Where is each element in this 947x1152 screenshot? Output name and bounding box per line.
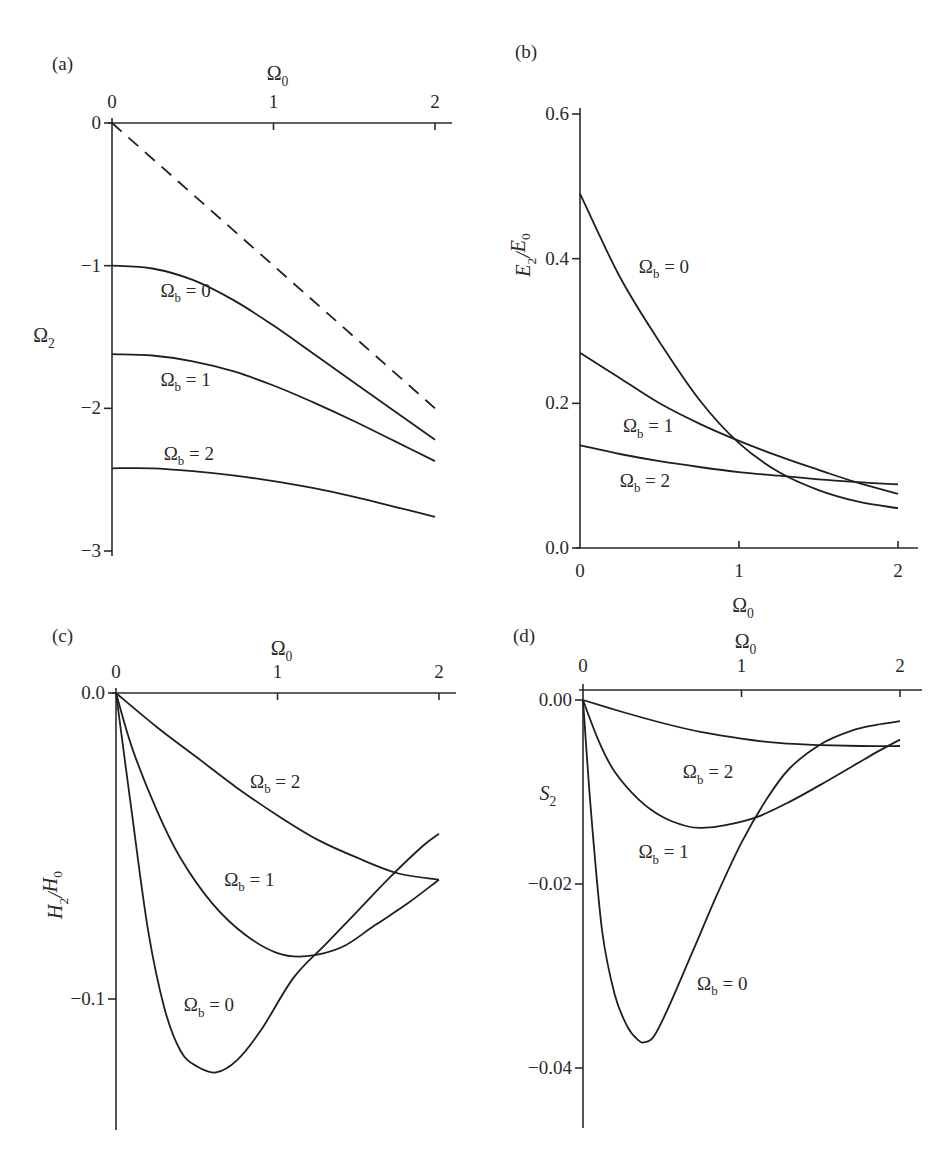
x-tick-label-d: 2 <box>895 655 905 676</box>
series-label-b-omega-b-1: Ωb = 1 <box>623 415 673 440</box>
panel-tag-a: (a) <box>52 53 73 75</box>
x-tick-label-b: 1 <box>734 560 744 581</box>
x-axis-title-b: Ω0 <box>732 594 754 621</box>
series-line-d-omega-b-2 <box>583 700 900 746</box>
y-axis-title-d: S2 <box>540 782 557 809</box>
y-axis-title-b: E2/E0 <box>507 233 539 278</box>
y-axis-title-group-c: H2/H0 <box>39 871 71 920</box>
series-line-a-dashed-reference <box>112 123 435 408</box>
y-tick-label-d: −0.02 <box>528 873 572 894</box>
x-tick-label-c: 1 <box>273 661 283 682</box>
series-label-c-omega-b-2: Ωb = 2 <box>250 771 300 796</box>
panel-tag-b: (b) <box>515 41 537 63</box>
x-tick-label-d: 1 <box>737 655 747 676</box>
series-label-b-omega-b-2: Ωb = 2 <box>620 470 670 495</box>
x-tick-label-d: 0 <box>578 655 588 676</box>
panel-c: (c) 0120.0−0.1Ω0H2/H0Ωb = 0Ωb = 1Ωb = 2 <box>39 625 457 1130</box>
y-tick-label-c: −0.1 <box>71 988 105 1009</box>
y-axis-title-group-b: E2/E0 <box>507 233 539 278</box>
x-tick-label-b: 0 <box>575 560 585 581</box>
panel-tag-d: (d) <box>513 625 535 647</box>
x-tick-label-c: 2 <box>434 661 444 682</box>
x-axis-title-c: Ω0 <box>271 637 293 664</box>
x-tick-label-b: 2 <box>893 560 903 581</box>
x-axis-title-a: Ω0 <box>267 62 289 89</box>
y-tick-label-d: −0.04 <box>528 1057 572 1078</box>
y-axis-title-a: Ω2 <box>33 324 55 351</box>
series-label-c-omega-b-1: Ωb = 1 <box>224 869 274 894</box>
series-label-d-omega-b-0: Ωb = 0 <box>697 973 747 998</box>
series-label-d-omega-b-2: Ωb = 2 <box>683 761 733 786</box>
panel-b: (b) 0120.00.20.40.6Ω0E2/E0Ωb = 0Ωb = 1Ωb… <box>507 41 919 621</box>
panel-tag-c: (c) <box>52 625 73 647</box>
y-tick-label-a: −1 <box>81 255 101 276</box>
x-tick-label-a: 2 <box>430 91 440 112</box>
series-label-a-omega-b-0: Ωb = 0 <box>160 280 210 305</box>
y-tick-label-b: 0.4 <box>545 248 569 269</box>
series-label-d-omega-b-1: Ωb = 1 <box>638 841 688 866</box>
y-tick-label-b: 0.2 <box>545 392 569 413</box>
y-tick-label-b: 0.0 <box>545 537 569 558</box>
series-line-b-omega-b-0 <box>580 194 898 509</box>
x-tick-label-a: 1 <box>269 91 279 112</box>
x-axis-title-d: Ω0 <box>735 630 757 657</box>
series-label-c-omega-b-0: Ωb = 0 <box>184 994 234 1019</box>
series-label-b-omega-b-0: Ωb = 0 <box>639 256 689 281</box>
y-tick-label-c: 0.0 <box>81 682 105 703</box>
series-line-c-omega-b-0 <box>116 693 439 1073</box>
series-line-d-omega-b-1 <box>583 700 900 828</box>
y-tick-label-d: 0.00 <box>539 689 572 710</box>
x-tick-label-a: 0 <box>107 91 117 112</box>
x-tick-label-c: 0 <box>111 661 121 682</box>
series-line-a-omega-b-2 <box>112 468 435 517</box>
y-axis-title-c: H2/H0 <box>39 871 71 920</box>
y-tick-label-b: 0.6 <box>545 103 569 124</box>
series-label-a-omega-b-1: Ωb = 1 <box>160 369 210 394</box>
y-tick-label-a: 0 <box>92 112 102 133</box>
series-label-a-omega-b-2: Ωb = 2 <box>164 443 214 468</box>
y-tick-label-a: −3 <box>81 540 101 561</box>
figure-canvas: (a) 0120−1−2−3Ω0Ω2Ωb = 0Ωb = 1Ωb = 2 (b)… <box>0 0 947 1152</box>
panel-a: (a) 0120−1−2−3Ω0Ω2Ωb = 0Ωb = 1Ωb = 2 <box>33 53 452 561</box>
panel-d: (d) 0120.00−0.02−0.04Ω0S2Ωb = 0Ωb = 1Ωb … <box>513 625 922 1128</box>
y-tick-label-a: −2 <box>81 397 101 418</box>
